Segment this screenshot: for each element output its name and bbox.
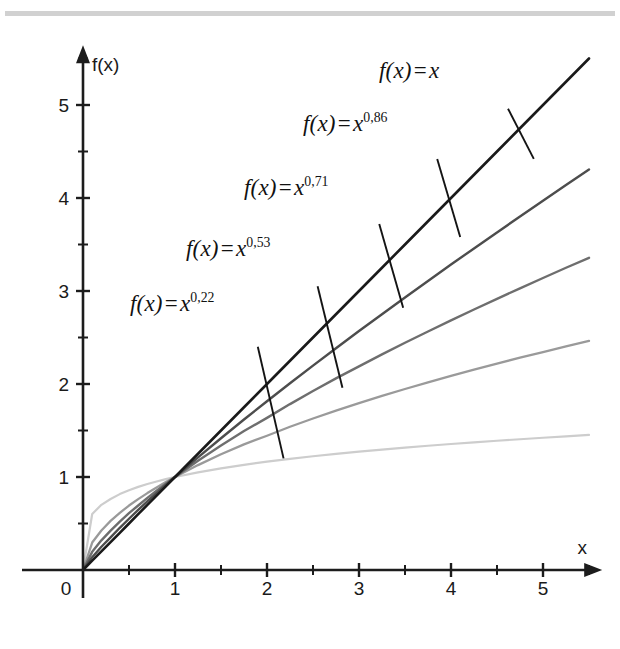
y-tick-label-4: 4 [58, 188, 69, 209]
label-equals: = [163, 291, 180, 316]
label-exponent: 0,53 [246, 235, 270, 250]
x-tick-label-2: 2 [262, 578, 273, 599]
label-f: f [303, 111, 310, 136]
label-base: x [429, 58, 439, 83]
label-exponent: 0,71 [304, 174, 328, 189]
x-tick-label-0: 0 [61, 578, 72, 599]
label-arg: (x) [386, 58, 412, 83]
x-axis-arrow-icon [584, 563, 602, 577]
label-arg: (x) [193, 236, 219, 261]
label-f: f [379, 58, 386, 83]
label-equals: = [336, 111, 353, 136]
curve-0.22 [83, 435, 589, 570]
leader-line-0 [508, 109, 534, 159]
x-tick-label-4: 4 [446, 578, 457, 599]
label-equals: = [219, 236, 236, 261]
x-tick-label-5: 5 [538, 578, 549, 599]
curve-label-x-022: f(x)=x0,22 [130, 291, 214, 317]
label-arg: (x) [310, 111, 336, 136]
label-exponent: 0,22 [190, 290, 214, 305]
plot-area: 01234512345 xf(x) [0, 0, 620, 649]
label-f: f [186, 236, 193, 261]
y-tick-label-3: 3 [58, 281, 69, 302]
leader-line-4 [258, 347, 284, 459]
label-equals: = [277, 175, 294, 200]
label-base: x [353, 111, 363, 136]
label-equals: = [412, 58, 429, 83]
y-axis-name: f(x) [92, 54, 119, 75]
label-f: f [244, 175, 251, 200]
leader-lines-group [258, 109, 534, 459]
curve-0.86 [83, 170, 589, 570]
leader-line-3 [318, 286, 343, 387]
y-tick-label-1: 1 [58, 467, 69, 488]
label-exponent: 0,86 [363, 110, 387, 125]
curve-label-x-053: f(x)=x0,53 [186, 236, 270, 262]
curve-label-x-071: f(x)=x0,71 [244, 175, 328, 201]
label-arg: (x) [137, 291, 163, 316]
y-axis-arrow-icon [76, 45, 90, 63]
label-arg: (x) [251, 175, 277, 200]
label-base: x [236, 236, 246, 261]
label-f: f [130, 291, 137, 316]
x-axis-name: x [577, 537, 587, 558]
leader-line-1 [437, 159, 460, 237]
label-base: x [294, 175, 304, 200]
y-tick-label-5: 5 [58, 95, 69, 116]
label-base: x [180, 291, 190, 316]
x-tick-label-1: 1 [170, 578, 181, 599]
y-tick-label-2: 2 [58, 374, 69, 395]
x-tick-label-3: 3 [354, 578, 365, 599]
curve-0.53 [83, 341, 589, 570]
chart-figure: 01234512345 xf(x) f(x)=x f(x)=x0,86 f(x)… [0, 0, 620, 649]
curve-label-x-086: f(x)=x0,86 [303, 111, 387, 137]
curve-label-x: f(x)=x [379, 58, 439, 84]
